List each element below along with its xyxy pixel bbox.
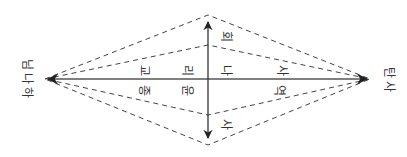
svg-text:탄: 탄 [382, 67, 396, 78]
label-history: 사 역 [272, 65, 289, 96]
label-self: 나 [219, 65, 233, 76]
label-society-top: 회 [219, 31, 233, 42]
label-ethics: 리 윤 [180, 65, 194, 96]
label-religion: 교 종 [137, 65, 151, 96]
label-society-bottom: 사 [219, 119, 233, 130]
svg-text:윤: 윤 [180, 85, 194, 96]
svg-text:나: 나 [20, 73, 34, 84]
svg-text:교: 교 [137, 65, 151, 76]
svg-text:사: 사 [382, 81, 396, 92]
endpoint-right-satan: 탄 사 [382, 67, 396, 92]
god-satan-diamond-diagram: 님 나 하 탄 사 교 종 리 윤 나 사 역 회 사 [0, 0, 407, 157]
svg-text:하: 하 [20, 87, 34, 98]
svg-text:역: 역 [272, 85, 286, 96]
svg-text:종: 종 [137, 85, 151, 96]
svg-text:사: 사 [275, 65, 289, 76]
svg-text:리: 리 [180, 65, 194, 76]
svg-text:님: 님 [20, 59, 34, 70]
endpoint-left-god: 님 나 하 [20, 59, 34, 98]
